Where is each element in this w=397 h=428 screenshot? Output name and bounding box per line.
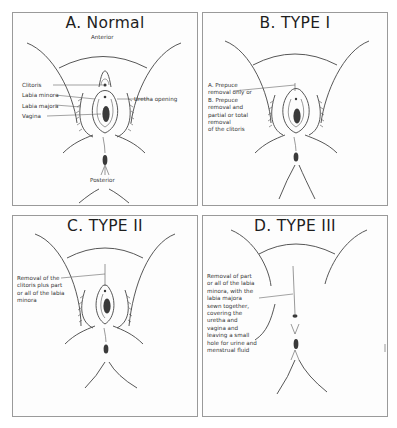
type-i-description: A. Prepuce removal only or B. Prepuce re… <box>208 82 252 134</box>
label-urethra-opening: Uretha opening <box>134 96 177 103</box>
label-clitoris: Clitoris <box>22 82 41 89</box>
panel-d-type-iii: D. TYPE III Removal of part or all of th… <box>202 215 388 417</box>
panel-a-normal: A. Normal Anterior C <box>12 12 198 206</box>
label-posterior: Posterior <box>90 177 115 184</box>
panel-b-type-i: B. TYPE I A. Prepuce removal only or B. … <box>202 12 388 206</box>
type-ii-description: Removal of the clitoris plus part or all… <box>17 275 64 305</box>
type-iii-description: Removal of part or all of the labia mino… <box>207 273 257 354</box>
label-vagina: Vagina <box>22 113 41 120</box>
panel-c-type-ii: C. TYPE II Removal of the clitoris plus … <box>12 215 198 417</box>
type-ii-illustration <box>13 216 199 418</box>
label-anterior: Anterior <box>91 34 114 41</box>
label-labia-majora: Labia majora <box>22 103 58 110</box>
label-labia-minora: Labia minora <box>22 92 59 99</box>
